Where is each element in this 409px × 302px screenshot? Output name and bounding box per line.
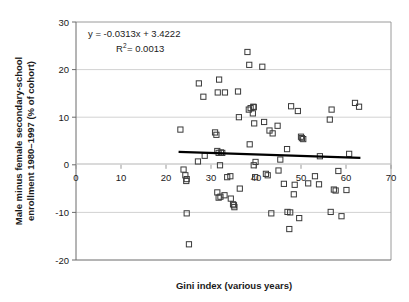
y-tick-label-30: 30	[58, 17, 69, 28]
x-axis-title: Gini index (various years)	[176, 280, 292, 291]
y-tick-label--20: -20	[55, 255, 69, 266]
y-axis-title: Male minus female secondary-school enrol…	[13, 57, 36, 225]
x-tick-label-0: 0	[73, 172, 78, 183]
y-axis-title-line1: Male minus female secondary-school	[13, 57, 24, 225]
x-tick-label-20: 20	[161, 172, 172, 183]
x-tick-label-10: 10	[116, 172, 127, 183]
x-tick-label-50: 50	[296, 172, 307, 183]
chart-canvas: -20-100102030 010203040506070 y = -0.031…	[0, 0, 409, 302]
y-tick-label-0: 0	[64, 159, 69, 170]
y-axis-title-line2: enrollment 1980–1997 (% of cohort)	[25, 61, 36, 221]
y-tick-label-20: 20	[58, 64, 69, 75]
regression-equation-label: y = -0.0313x + 3.4222	[88, 28, 180, 39]
x-tick-label-70: 70	[386, 172, 397, 183]
r-squared-value: = 0.0013	[127, 43, 164, 54]
scatter-chart: -20-100102030 010203040506070 y = -0.031…	[0, 0, 409, 302]
x-tick-label-30: 30	[206, 172, 217, 183]
y-tick-label--10: -10	[55, 207, 69, 218]
r-squared-prefix: R	[116, 43, 123, 54]
y-tick-label-10: 10	[58, 112, 69, 123]
x-tick-label-60: 60	[341, 172, 352, 183]
